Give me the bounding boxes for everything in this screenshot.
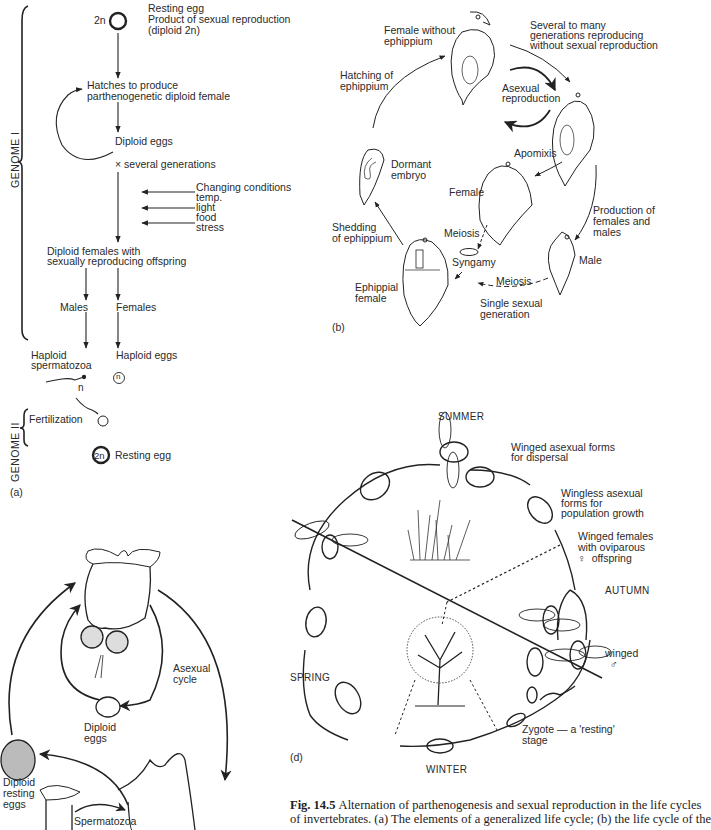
caption-line-2: of invertebrates. (a) The elements of a … — [290, 812, 610, 826]
meiosis-left-label: Meiosis — [444, 228, 480, 239]
caption-text-1: Alternation of parthenogenesis and sexua… — [339, 798, 702, 812]
genome-1-label: GENOME I — [9, 131, 21, 188]
panel-d-label: (d) — [290, 752, 303, 763]
caption-label: Fig. 14.5 — [290, 798, 335, 812]
caption-line-1: Fig. 14.5 Alternation of parthenogenesis… — [290, 798, 610, 812]
several-generations-label: × several generations — [115, 159, 216, 170]
spring-label: SPRING — [290, 672, 330, 683]
resting-egg-desc-2: (diploid 2n) — [148, 25, 200, 36]
haploid-eggs-label: Haploid eggs — [116, 350, 177, 361]
condition-4: stress — [196, 222, 224, 233]
male-label: Male — [579, 255, 602, 266]
syngamy-label: Syngamy — [452, 257, 496, 268]
final-resting-egg-label: Resting egg — [115, 450, 171, 461]
spermatozoa-label: Spermatozoa — [74, 816, 136, 827]
resting-egg-ploidy: 2n — [94, 15, 106, 26]
hatches-line-2: parthenogenetic diploid female — [87, 91, 230, 102]
panel-a-label: (a) — [10, 487, 23, 498]
resting-eggs-c-3: eggs — [3, 799, 26, 810]
ephippial-2: female — [355, 293, 387, 304]
males-label: Males — [60, 302, 88, 313]
final-egg-ploidy: 2n — [94, 450, 105, 461]
zygote-2: stage — [522, 735, 548, 746]
fertilization-label: Fertilization — [29, 414, 83, 425]
panel-a-flowchart — [18, 6, 195, 463]
female-without-2: ephippium — [384, 36, 432, 47]
figure-caption: Fig. 14.5 Alternation of parthenogenesis… — [290, 798, 610, 826]
winter-label: WINTER — [426, 764, 467, 775]
panel-d-aphid-cycle — [292, 412, 611, 753]
autumn-label: AUTUMN — [605, 585, 650, 596]
hatching-2: ephippium — [340, 81, 388, 92]
several-3: without sexual reproduction — [530, 40, 658, 51]
egg-n-label: n — [116, 372, 120, 383]
shedding-2: of ephippium — [332, 233, 392, 244]
asexual-b-2: reproduction — [502, 93, 560, 104]
winged-asexual-2: for dispersal — [511, 452, 568, 463]
genome-2-label: GENOME II — [9, 422, 21, 482]
wingless-3: population growth — [561, 508, 644, 519]
winged-females-3: ♀ offspring — [578, 553, 632, 564]
asexual-cycle-2: cycle — [173, 674, 197, 685]
sperm-n-label: n — [78, 383, 84, 394]
grass-drawing — [408, 500, 470, 560]
haploid-sperm-2: spermatozoa — [31, 360, 92, 371]
female-b-label: Female — [449, 187, 484, 198]
winged-male-2: ♂ — [610, 659, 618, 670]
production-3: males — [593, 227, 621, 238]
tree-drawing — [407, 617, 473, 706]
apomixis-label: Apomixis — [514, 148, 557, 159]
dormant-2: embryo — [391, 170, 426, 181]
meiosis-bottom-label: Meiosis — [496, 276, 532, 287]
diploid-eggs-c-2: eggs — [84, 733, 107, 744]
summer-label: SUMMER — [438, 411, 484, 422]
single-sexual-2: generation — [480, 309, 530, 320]
females-label: Females — [116, 302, 156, 313]
diploid-eggs-label: Diploid eggs — [115, 136, 173, 147]
diploid-females-2: sexually reproducing offspring — [47, 256, 186, 267]
panel-b-label: (b) — [332, 322, 345, 333]
